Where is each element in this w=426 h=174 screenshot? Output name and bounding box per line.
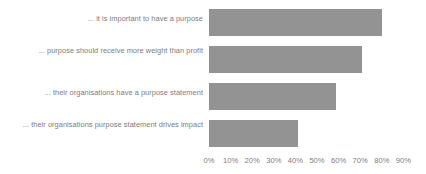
x-tick-label-70: 70% <box>353 156 368 165</box>
bar-chart: ... it is important to have a purpose ..… <box>0 0 426 174</box>
x-tick-label-20: 20% <box>245 156 260 165</box>
bar-0 <box>209 9 382 36</box>
bar-3 <box>209 120 298 147</box>
x-tick-label-0: 0% <box>204 156 215 165</box>
x-tick-label-90: 90% <box>396 156 411 165</box>
x-tick-label-80: 80% <box>374 156 389 165</box>
bar-1 <box>209 46 362 73</box>
x-tick-label-60: 60% <box>331 156 346 165</box>
x-tick-label-30: 30% <box>266 156 281 165</box>
category-label-1: ... purpose should receive more weight t… <box>4 46 203 55</box>
x-tick-label-50: 50% <box>309 156 324 165</box>
x-tick-label-40: 40% <box>288 156 303 165</box>
category-label-3: ... their organisations purpose statemen… <box>4 120 203 129</box>
category-label-0: ... it is important to have a purpose <box>4 14 203 23</box>
x-tick-label-10: 10% <box>223 156 238 165</box>
category-label-2: ... their organisations have a purpose s… <box>4 88 203 97</box>
bar-2 <box>209 83 336 110</box>
